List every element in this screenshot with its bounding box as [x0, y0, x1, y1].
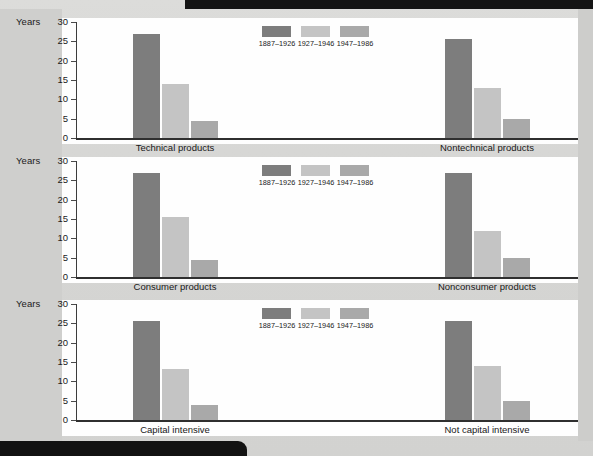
bar-1927–1946-Technical products — [162, 84, 189, 138]
y-axis-tick-label: 15 — [48, 213, 68, 224]
bar-1947–1986-Nonconsumer products — [503, 258, 530, 277]
legend-swatch — [262, 26, 291, 37]
y-axis-tick-label: 0 — [48, 132, 68, 143]
y-axis-tick-label: 25 — [48, 35, 68, 46]
y-axis-line — [76, 161, 77, 277]
legend-swatch — [262, 308, 291, 319]
page-top-bleed-bar — [185, 0, 593, 9]
y-axis-tick-label: 20 — [48, 194, 68, 205]
group-label: Not capital intensive — [444, 424, 529, 435]
y-axis-tick-label: 30 — [48, 155, 68, 166]
bar-1927–1946-Nontechnical products — [474, 88, 501, 138]
scanned-page: Years302520151050Technical productsNonte… — [0, 0, 593, 456]
bar-1887–1926-Not capital intensive — [445, 321, 472, 420]
group-label: Consumer products — [134, 281, 217, 292]
y-axis-tick-label: 0 — [48, 271, 68, 282]
y-axis-tick-label: 15 — [48, 356, 68, 367]
legend-swatch — [301, 165, 330, 176]
y-axis-title: Years — [16, 155, 40, 166]
y-axis-tick-label: 10 — [48, 232, 68, 243]
bar-1927–1946-Nonconsumer products — [474, 231, 501, 277]
y-axis-tick-label: 25 — [48, 317, 68, 328]
legend-swatch — [340, 308, 369, 319]
y-axis-tick-label: 10 — [48, 375, 68, 386]
y-axis-title: Years — [16, 16, 40, 27]
bar-1887–1926-Capital intensive — [133, 321, 160, 420]
y-axis-tick-label: 25 — [48, 174, 68, 185]
bar-1927–1946-Consumer products — [162, 217, 189, 277]
y-axis-title: Years — [16, 298, 40, 309]
bar-1947–1986-Technical products — [191, 121, 218, 138]
x-axis-baseline — [76, 420, 578, 422]
group-label: Capital intensive — [140, 424, 210, 435]
bar-1927–1946-Capital intensive — [162, 369, 189, 420]
bar-1947–1986-Not capital intensive — [503, 401, 530, 420]
bar-1887–1926-Nonconsumer products — [445, 173, 472, 277]
x-axis-baseline — [76, 138, 578, 140]
legend-label: 1947–1986 — [332, 39, 378, 48]
legend-swatch — [301, 308, 330, 319]
bar-1887–1926-Nontechnical products — [445, 39, 472, 138]
page-bottom-tab — [0, 441, 247, 456]
y-axis-tick-label: 5 — [48, 395, 68, 406]
bar-1927–1946-Not capital intensive — [474, 366, 501, 420]
y-axis-tick-label: 5 — [48, 252, 68, 263]
page-right-margin — [578, 9, 593, 441]
bar-1947–1986-Consumer products — [191, 260, 218, 277]
x-axis-baseline — [76, 277, 578, 279]
legend-swatch — [340, 165, 369, 176]
bar-1887–1926-Consumer products — [133, 173, 160, 277]
legend-label: 1947–1986 — [332, 321, 378, 330]
legend-label: 1947–1986 — [332, 178, 378, 187]
y-axis-tick-label: 10 — [48, 93, 68, 104]
bar-1887–1926-Technical products — [133, 34, 160, 138]
group-label: Nontechnical products — [440, 142, 534, 153]
y-axis-tick-label: 30 — [48, 298, 68, 309]
y-axis-line — [76, 22, 77, 138]
bar-1947–1986-Nontechnical products — [503, 119, 530, 138]
y-axis-tick-label: 0 — [48, 414, 68, 425]
y-axis-tick-label: 20 — [48, 55, 68, 66]
y-axis-line — [76, 304, 77, 420]
legend-swatch — [301, 26, 330, 37]
y-axis-tick-label: 5 — [48, 113, 68, 124]
group-label: Technical products — [136, 142, 215, 153]
group-label: Nonconsumer products — [438, 281, 536, 292]
legend-swatch — [340, 26, 369, 37]
y-axis-tick-label: 20 — [48, 337, 68, 348]
legend-swatch — [262, 165, 291, 176]
y-axis-tick-label: 15 — [48, 74, 68, 85]
bar-1947–1986-Capital intensive — [191, 405, 218, 420]
y-axis-tick-label: 30 — [48, 16, 68, 27]
